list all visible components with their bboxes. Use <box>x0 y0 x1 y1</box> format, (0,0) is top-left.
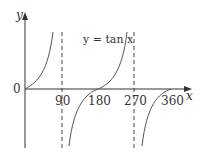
curve-label: y = tan x <box>82 33 134 46</box>
x-tick-90: 90 <box>55 94 70 108</box>
y-axis-label: y <box>15 8 23 22</box>
y-axis-arrow-icon <box>22 12 28 20</box>
x-axis-label: x <box>186 89 193 103</box>
x-tick-180: 180 <box>88 94 111 108</box>
x-tick-270: 270 <box>124 94 147 108</box>
x-tick-360: 360 <box>161 94 184 108</box>
origin-label: 0 <box>13 82 21 96</box>
tan-branch-1 <box>25 32 53 89</box>
tan-graph: y x 0 90 180 270 360 y = tan x <box>0 0 202 155</box>
